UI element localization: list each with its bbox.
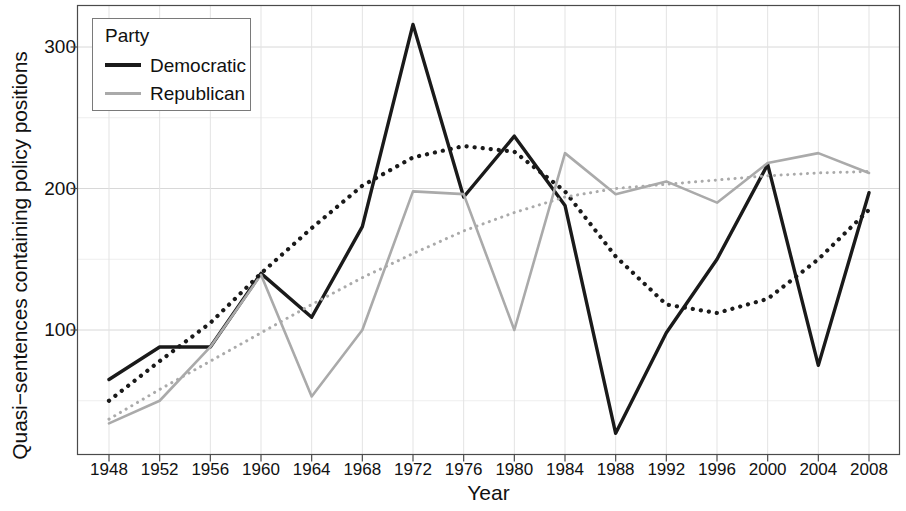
x-axis-tick-label: 1976 <box>445 460 483 480</box>
x-axis-tick-label: 1960 <box>242 460 280 480</box>
x-axis-tick-label: 2004 <box>799 460 837 480</box>
series-line-democratic-trend <box>109 146 869 401</box>
x-axis-title: Year <box>77 481 900 505</box>
x-axis-tick-label: 2008 <box>850 460 888 480</box>
x-axis-tick-label: 1956 <box>191 460 229 480</box>
legend-line-icon-republican <box>105 92 141 95</box>
chart-figure: Quasi−sentences containing policy positi… <box>0 0 906 511</box>
legend-entry-democratic[interactable]: Democratic <box>105 53 246 77</box>
legend-entry-republican[interactable]: Republican <box>105 81 245 105</box>
x-axis-tick-label: 1968 <box>343 460 381 480</box>
legend: Party Democratic Republican <box>92 18 251 111</box>
x-axis-tick-label: 1952 <box>141 460 179 480</box>
x-axis-tick-label: 1980 <box>495 460 533 480</box>
x-axis-tick-label: 2000 <box>749 460 787 480</box>
legend-line-icon-democratic <box>105 63 141 67</box>
series-line-republican-trend <box>109 172 869 420</box>
x-axis-tick-label: 1984 <box>546 460 584 480</box>
x-axis-tick-label: 1972 <box>394 460 432 480</box>
legend-label-democratic: Democratic <box>150 56 246 75</box>
legend-label-republican: Republican <box>150 84 245 103</box>
x-axis-tick-label: 1996 <box>698 460 736 480</box>
x-axis-tick-label: 1992 <box>647 460 685 480</box>
x-axis-tick-label: 1988 <box>597 460 635 480</box>
x-axis-tick-label: 1948 <box>90 460 128 480</box>
x-axis-tick-label: 1964 <box>293 460 331 480</box>
series-line-republican <box>109 153 869 423</box>
legend-title: Party <box>105 25 149 47</box>
